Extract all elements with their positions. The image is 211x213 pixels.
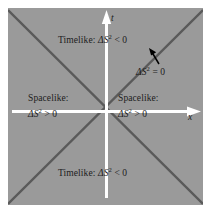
timelike-past-exponent: 2 xyxy=(109,166,112,173)
arrow-up-icon xyxy=(102,10,111,24)
spacelike-right-name: Spacelike: xyxy=(118,93,159,104)
timelike-future-label: Timelike: ΔS2 < 0 xyxy=(58,35,127,46)
timelike-past-expression: ΔS xyxy=(98,168,109,178)
timelike-future-expression: ΔS xyxy=(98,35,109,45)
timelike-past-name: Timelike: xyxy=(58,168,96,178)
timelike-past-relation: < 0 xyxy=(114,168,127,178)
spacelike-left-relation: > 0 xyxy=(44,109,57,119)
null-interval-exponent: 2 xyxy=(147,65,150,72)
spacelike-right-relation: > 0 xyxy=(134,109,147,119)
null-interval-expression: ΔS xyxy=(136,67,147,77)
spacelike-right-exponent: 2 xyxy=(129,107,132,114)
null-interval-annotation-label: ΔS2 = 0 xyxy=(136,67,165,78)
spacelike-left-name: Spacelike: xyxy=(28,93,69,104)
timelike-future-exponent: 2 xyxy=(109,33,112,40)
t-axis-label: t xyxy=(111,13,114,23)
x-axis-label: x xyxy=(188,112,192,122)
spacelike-right-expression-group: ΔS2 > 0 xyxy=(118,109,147,120)
spacelike-left-expression-group: ΔS2 > 0 xyxy=(28,109,57,120)
lightcone-figure: Timelike: ΔS2 < 0 Timelike: ΔS2 < 0 Spac… xyxy=(0,0,211,213)
timelike-past-label: Timelike: ΔS2 < 0 xyxy=(58,168,127,179)
spacelike-left-expression: ΔS xyxy=(28,109,39,119)
timelike-future-relation: < 0 xyxy=(114,35,127,45)
null-interval-relation: = 0 xyxy=(152,67,165,77)
spacelike-left-exponent: 2 xyxy=(39,107,42,114)
spacetime-diagram-plot-area: Timelike: ΔS2 < 0 Timelike: ΔS2 < 0 Spac… xyxy=(8,8,203,205)
timelike-future-name: Timelike: xyxy=(58,35,96,45)
spacelike-right-expression: ΔS xyxy=(118,109,129,119)
